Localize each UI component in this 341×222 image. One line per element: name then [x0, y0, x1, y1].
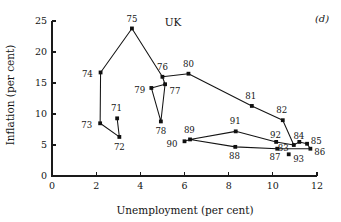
phillips-curve-chart: 0246810120510152025 71727374757677787980… [0, 0, 341, 222]
axis-tick-labels: 0246810120510152025 [35, 15, 323, 191]
data-point-marker [99, 71, 103, 75]
data-point-label: 86 [314, 147, 325, 157]
data-point-marker [130, 27, 134, 31]
data-point-marker [115, 116, 119, 120]
y-tick-label: 10 [35, 108, 47, 119]
chart-figure: 0246810120510152025 71727374757677787980… [0, 0, 341, 222]
data-point-label: 91 [230, 116, 241, 126]
data-point-marker [308, 147, 312, 151]
data-point-label: 76 [157, 62, 168, 72]
x-tick-label: 0 [49, 180, 55, 191]
data-point-marker [183, 139, 187, 143]
y-tick-label: 25 [35, 15, 47, 26]
x-tick-label: 6 [181, 180, 187, 191]
data-point-marker [292, 143, 296, 147]
x-tick-label: 8 [226, 180, 232, 191]
data-point-label: 72 [114, 142, 125, 152]
data-point-marker [187, 72, 191, 76]
y-tick-label: 5 [41, 139, 47, 150]
data-point-label: 78 [155, 126, 166, 136]
panel-label: (d) [315, 13, 329, 24]
data-point-label: 87 [270, 152, 281, 162]
x-axis-label: Unemployment (per cent) [116, 204, 253, 216]
x-tick-label: 12 [311, 180, 323, 191]
chart-title: UK [165, 16, 182, 28]
data-point-marker [233, 145, 237, 149]
data-point-label: 80 [183, 59, 194, 69]
data-point-label: 84 [293, 131, 304, 141]
x-tick-label: 10 [267, 180, 279, 191]
data-point-marker [281, 118, 285, 122]
data-point-label: 79 [134, 85, 145, 95]
y-tick-label: 15 [35, 77, 47, 88]
data-point-marker [305, 142, 309, 146]
data-point-marker [159, 120, 163, 124]
data-point-label: 77 [169, 86, 180, 96]
data-point-label: 89 [184, 125, 195, 135]
data-point-label: 82 [276, 105, 287, 115]
data-point-label: 81 [245, 91, 256, 101]
data-point-marker [117, 135, 121, 139]
data-point-label: 92 [270, 130, 281, 140]
data-point-label: 71 [111, 103, 122, 113]
data-point-marker [163, 82, 167, 86]
x-tick-label: 2 [93, 180, 99, 191]
data-point-marker [250, 104, 254, 108]
data-point-label: 90 [166, 139, 177, 149]
data-point-label: 73 [81, 120, 92, 130]
data-point-label: 85 [311, 136, 322, 146]
y-axis-label: Inflation (per cent) [4, 45, 16, 146]
data-point-marker [188, 138, 192, 142]
data-point-label: 88 [229, 151, 240, 161]
data-point-marker [234, 129, 238, 133]
data-point-label: 75 [126, 14, 137, 24]
y-tick-label: 20 [35, 46, 47, 57]
y-tick-label: 0 [41, 170, 47, 181]
data-point-label: 74 [82, 69, 93, 79]
data-point-marker [149, 86, 153, 90]
data-point-label: 93 [293, 154, 304, 164]
data-point-marker [161, 75, 165, 79]
data-point-marker [98, 121, 102, 125]
x-tick-label: 4 [137, 180, 143, 191]
